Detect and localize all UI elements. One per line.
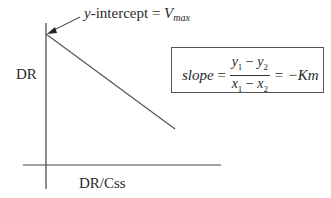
slope-formula-box: slope = y1 − y2 x1 − x2 = −Km	[171, 47, 324, 93]
formula-equals: =	[217, 67, 225, 83]
plot-canvas	[0, 0, 331, 198]
formula-fraction: y1 − y2 x1 − x2	[230, 54, 270, 97]
arrow-head-icon	[47, 27, 57, 34]
formula-denominator: x1 − x2	[230, 76, 270, 97]
arrow-shaft	[52, 17, 80, 31]
annotation-var-y: y	[84, 5, 91, 21]
formula-rhs: = −Km	[274, 67, 319, 83]
formula-numerator: y1 − y2	[230, 54, 270, 76]
slope-formula: slope = y1 − y2 x1 − x2 = −Km	[182, 54, 319, 97]
regression-line	[46, 34, 175, 129]
annotation-sub-max: max	[173, 12, 190, 23]
y-axis-label: DR	[16, 66, 37, 83]
annotation-var-v: V	[164, 5, 173, 21]
annotation-text: -intercept =	[91, 5, 164, 21]
y-intercept-annotation: y-intercept = Vmax	[84, 5, 190, 23]
x-axis-label: DR/Css	[79, 175, 126, 192]
formula-lhs: slope	[182, 67, 214, 83]
